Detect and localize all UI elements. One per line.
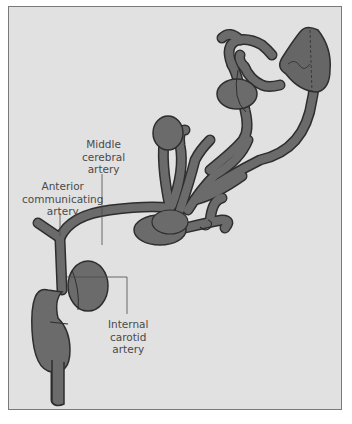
- label-line: Internal: [108, 318, 148, 331]
- label-line: artery: [108, 343, 148, 356]
- label-line: communicating: [22, 193, 103, 206]
- carotid-siphon: [32, 290, 70, 373]
- vascular-mass: [280, 27, 331, 92]
- label-line: artery: [22, 205, 103, 218]
- ica-aneurysm: [68, 261, 108, 311]
- label-middle-cerebral-artery: Middle cerebral artery: [82, 138, 125, 176]
- label-internal-carotid-artery: Internal carotid artery: [108, 318, 148, 356]
- label-line: cerebral: [82, 151, 125, 164]
- label-line: Anterior: [22, 180, 103, 193]
- label-line: carotid: [108, 331, 148, 344]
- mca-aneurysm-2: [153, 116, 183, 150]
- label-line: artery: [82, 163, 125, 176]
- label-anterior-communicating-artery: Anterior communicating artery: [22, 180, 103, 218]
- label-line: Middle: [82, 138, 125, 151]
